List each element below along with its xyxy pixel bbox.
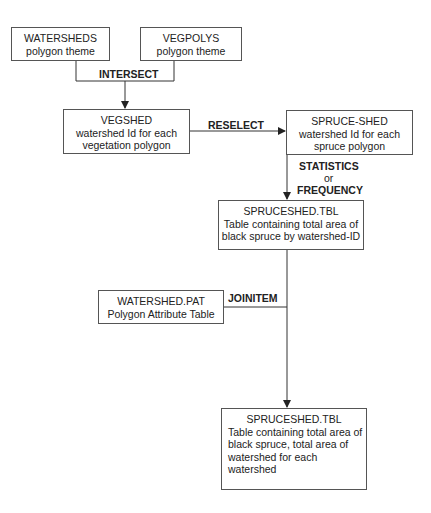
node-watershed-pat: WATERSHED.PAT Polygon Attribute Table <box>98 290 224 324</box>
node-spruceshed-tbl-final: SPRUCESHED.TBL Table containing total ar… <box>221 408 367 490</box>
node-watersheds: WATERSHEDS polygon theme <box>11 27 110 61</box>
node-title: WATERSHED.PAT <box>99 295 223 308</box>
node-line: watershed Id for each <box>287 128 412 141</box>
intersect-label: INTERSECT <box>99 68 159 80</box>
node-vegpolys: VEGPOLYS polygon theme <box>140 27 242 61</box>
node-line: Table containing total area of <box>219 218 363 231</box>
node-subtitle: polygon theme <box>141 45 241 58</box>
node-title: VEGPOLYS <box>141 32 241 45</box>
node-line: black spruce, total area of <box>228 438 366 451</box>
node-line: spruce polygon <box>287 140 412 153</box>
node-title: SPRUCE-SHED <box>287 115 412 128</box>
node-spruceshed-tbl: SPRUCESHED.TBL Table containing total ar… <box>218 200 364 250</box>
frequency-label: FREQUENCY <box>297 184 363 196</box>
node-line: vegetation polygon <box>64 139 189 152</box>
joinitem-label: JOINITEM <box>228 292 278 304</box>
or-label: or <box>324 172 333 184</box>
node-title: VEGSHED <box>64 114 189 127</box>
node-line: watershed for each <box>228 451 366 464</box>
node-spruce-shed: SPRUCE-SHED watershed Id for each spruce… <box>286 110 413 155</box>
node-title: WATERSHEDS <box>12 32 109 45</box>
node-subtitle: polygon theme <box>12 45 109 58</box>
node-line: black spruce by watershed-ID <box>219 230 363 243</box>
node-line: Table containing total area of <box>228 426 366 439</box>
node-line: watershed <box>228 463 366 476</box>
node-vegshed: VEGSHED watershed Id for each vegetation… <box>63 109 190 154</box>
node-title: SPRUCESHED.TBL <box>228 413 366 426</box>
node-subtitle: Polygon Attribute Table <box>99 308 223 321</box>
node-line: watershed Id for each <box>64 127 189 140</box>
reselect-label: RESELECT <box>208 119 264 131</box>
node-title: SPRUCESHED.TBL <box>219 205 363 218</box>
statistics-label: STATISTICS <box>299 160 359 172</box>
